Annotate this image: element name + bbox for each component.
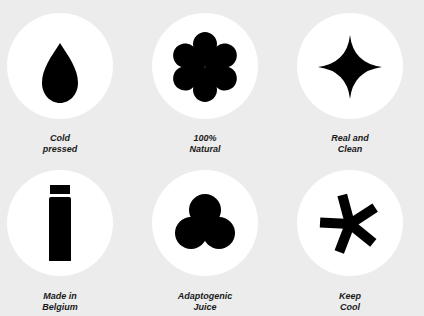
feature-badge-cold-pressed	[7, 13, 113, 119]
drop-icon	[7, 13, 113, 119]
feature-label: Cold pressed	[0, 133, 120, 155]
sparkle-icon	[297, 13, 403, 119]
feature-label: Keep Cool	[290, 291, 410, 313]
feature-badge-natural	[152, 13, 258, 119]
trefoil-icon	[152, 170, 258, 276]
feature-badge-adaptogenic	[152, 170, 258, 276]
asterisk-icon	[297, 170, 403, 276]
feature-badge-keep-cool	[297, 170, 403, 276]
feature-label: Made in Belgium	[0, 291, 120, 313]
feature-badge-real-clean	[297, 13, 403, 119]
bottle-icon	[7, 170, 113, 276]
feature-badge-belgium	[7, 170, 113, 276]
feature-label: Real and Clean	[290, 133, 410, 155]
feature-label: 100% Natural	[145, 133, 265, 155]
flower-icon	[152, 13, 258, 119]
feature-label: Adaptogenic Juice	[145, 291, 265, 313]
